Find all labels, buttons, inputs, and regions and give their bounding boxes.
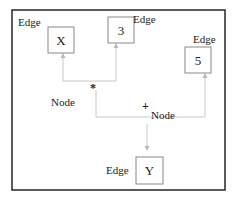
node-three-value: 3 [118,23,125,38]
node-five: 5 Edge [185,33,216,73]
operator-mul-label: Node [51,96,75,108]
node-y-label: Edge [106,164,129,176]
node-x: X Edge [18,16,74,53]
operator-add: + Node [142,99,175,121]
operator-mul-symbol: * [90,81,96,95]
operator-mul: * Node [51,81,96,108]
node-x-value: X [56,33,66,48]
operator-add-label: Node [151,109,175,121]
arrow-to-3 [114,43,119,48]
arrow-to-5 [203,73,208,78]
node-five-value: 5 [195,53,202,68]
node-y-value: Y [145,163,155,178]
node-x-label: Edge [18,16,41,28]
operator-add-symbol: + [142,99,149,113]
node-y: Y Edge [106,157,163,184]
node-five-label: Edge [193,33,216,45]
arrow-to-x [61,53,66,58]
node-three: 3 Edge [108,13,156,43]
arrow-to-y [145,146,150,151]
diagram-canvas: X Edge 3 Edge 5 Edge Y Edge * Node + Nod… [0,0,236,197]
node-three-label: Edge [133,13,156,25]
